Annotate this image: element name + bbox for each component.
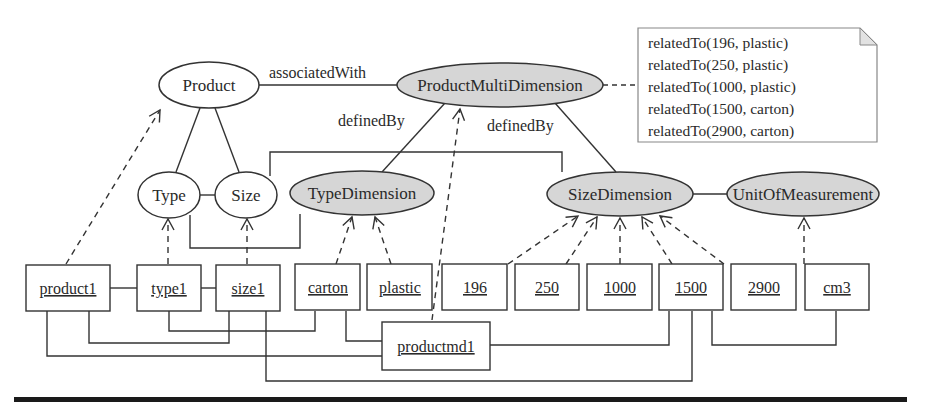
concept-size-dimension: SizeDimension xyxy=(547,172,693,216)
svg-text:196: 196 xyxy=(463,279,487,296)
svg-text:Product: Product xyxy=(183,76,236,95)
svg-text:250: 250 xyxy=(535,279,559,296)
svg-text:1500: 1500 xyxy=(675,279,707,296)
defined-by-size-edge xyxy=(555,103,616,172)
svg-text:product1: product1 xyxy=(40,280,97,298)
instance-1000: 1000 xyxy=(587,264,652,310)
carton-instance-arrow xyxy=(336,217,352,264)
instance-2900: 2900 xyxy=(731,264,796,310)
instance-carton: carton xyxy=(295,264,360,310)
instance-boxes: product1 type1 size1 carton plastic 196 … xyxy=(26,264,869,370)
svg-text:SizeDimension: SizeDimension xyxy=(568,185,672,204)
note-line-4: relatedTo(1500, carton) xyxy=(648,100,794,118)
instance-plastic: plastic xyxy=(367,264,432,310)
svg-text:TypeDimension: TypeDimension xyxy=(308,184,417,203)
svg-text:productmd1: productmd1 xyxy=(397,338,474,356)
svg-text:1000: 1000 xyxy=(604,279,636,296)
250-instance-arrow xyxy=(566,217,597,264)
defined-by-label-right: definedBy xyxy=(487,117,554,135)
svg-text:ProductMultiDimension: ProductMultiDimension xyxy=(417,76,583,95)
ontology-diagram: relatedTo(196, plastic) relatedTo(250, p… xyxy=(0,0,934,416)
svg-text:Type: Type xyxy=(152,186,186,205)
instance-1500: 1500 xyxy=(659,264,723,310)
2900-instance-arrow xyxy=(660,216,724,264)
concept-unit-of-measurement: UnitOfMeasurement xyxy=(727,172,879,216)
svg-text:cm3: cm3 xyxy=(823,279,851,296)
type-typedimension-link xyxy=(190,214,300,248)
note-line-2: relatedTo(250, plastic) xyxy=(648,56,788,74)
concept-product-multi-dimension: ProductMultiDimension xyxy=(397,63,603,107)
product-type-edge xyxy=(176,108,200,172)
svg-text:2900: 2900 xyxy=(748,279,780,296)
note-line-1: relatedTo(196, plastic) xyxy=(648,34,788,52)
concept-size: Size xyxy=(215,172,277,218)
instance-type1: type1 xyxy=(137,265,201,311)
instance-196: 196 xyxy=(442,264,507,310)
instance-size1: size1 xyxy=(216,265,280,311)
plastic-instance-arrow xyxy=(375,217,391,264)
instance-productmd1: productmd1 xyxy=(382,322,490,370)
svg-text:size1: size1 xyxy=(232,280,265,297)
constraint-note: relatedTo(196, plastic) relatedTo(250, p… xyxy=(638,28,877,142)
concept-product: Product xyxy=(159,62,259,108)
svg-text:carton: carton xyxy=(308,279,348,296)
svg-text:UnitOfMeasurement: UnitOfMeasurement xyxy=(733,185,874,204)
size-sizedimension-link xyxy=(270,152,562,176)
instance-cm3: cm3 xyxy=(805,264,869,310)
svg-text:type1: type1 xyxy=(151,280,187,298)
note-line-3: relatedTo(1000, plastic) xyxy=(648,78,796,96)
note-line-5: relatedTo(2900, carton) xyxy=(648,122,794,140)
svg-text:plastic: plastic xyxy=(379,279,421,297)
instance-product1: product1 xyxy=(26,265,110,311)
associated-with-label: associatedWith xyxy=(269,64,366,81)
defined-by-label-left: definedBy xyxy=(338,112,405,130)
1500-instance-arrow xyxy=(642,217,672,264)
concept-type-dimension: TypeDimension xyxy=(290,171,434,215)
196-instance-arrow xyxy=(508,216,578,264)
instance-250: 250 xyxy=(515,264,579,310)
product-size-edge xyxy=(215,108,239,172)
svg-text:Size: Size xyxy=(231,186,260,205)
bottom-rule xyxy=(14,397,907,402)
concept-type: Type xyxy=(138,172,200,218)
